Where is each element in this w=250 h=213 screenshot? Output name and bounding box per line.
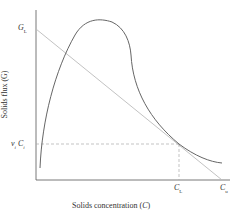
gl-label: GL	[18, 23, 27, 34]
chart-canvas	[0, 0, 250, 213]
y-axis-label: Solids flux (G)	[0, 71, 9, 119]
operating-line	[36, 29, 222, 180]
flux-curve	[40, 20, 222, 168]
vici-label: vi Ci	[11, 139, 25, 150]
cl-label: CL	[174, 183, 182, 194]
cu-label: Cu	[220, 183, 228, 194]
x-axis-label: Solids concentration (C)	[72, 201, 150, 210]
